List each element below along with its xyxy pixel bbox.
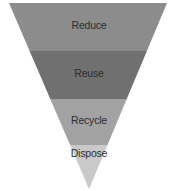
- level-label-recycle: Recycle: [0, 114, 170, 126]
- level-label-dispose: Dispose: [0, 147, 170, 159]
- level-label-reuse: Reuse: [0, 67, 170, 79]
- level-label-reduce: Reduce: [0, 19, 170, 31]
